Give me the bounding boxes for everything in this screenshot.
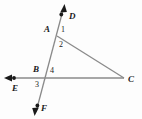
dot-D [59, 13, 63, 17]
point-label-C: C [128, 75, 134, 84]
segment-AC [57, 36, 124, 78]
point-label-E: E [12, 84, 18, 93]
angle-label-3: 3 [35, 81, 39, 89]
point-label-B: B [33, 65, 39, 74]
angle-label-2: 2 [59, 41, 63, 49]
point-label-D: D [69, 12, 76, 21]
dot-E [12, 76, 16, 80]
point-label-F: F [41, 104, 47, 113]
geometry-figure: A B C D E F 1 2 3 4 [0, 0, 142, 119]
arrowhead-D [60, 4, 67, 12]
angle-label-1: 1 [61, 26, 65, 34]
dot-F [36, 104, 40, 108]
point-label-A: A [44, 25, 50, 34]
angle-label-4: 4 [50, 67, 54, 75]
arrowhead-E [4, 75, 12, 82]
arrowhead-F [32, 108, 39, 116]
